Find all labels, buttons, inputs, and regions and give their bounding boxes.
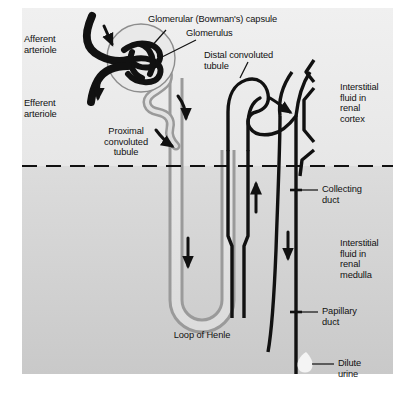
figure-canvas: Afferent arteriole Efferent arteriole Gl… [0, 0, 415, 401]
label-dilute-urine: Dilute urine [338, 358, 361, 379]
label-afferent-arteriole: Afferent arteriole [24, 34, 57, 55]
label-collecting-duct: Collecting duct [322, 184, 362, 205]
label-efferent-arteriole: Efferent arteriole [24, 98, 57, 119]
label-interstitial-fluid-cortex: Interstitial fluid in renal cortex [340, 82, 379, 124]
label-glomerulus: Glomerulus [186, 28, 233, 39]
label-papillary-duct: Papillary duct [322, 306, 357, 327]
label-bowmans-capsule: Glomerular (Bowman's) capsule [148, 14, 277, 25]
label-loop-of-henle: Loop of Henle [150, 330, 254, 341]
label-interstitial-fluid-medulla: Interstitial fluid in renal medulla [340, 238, 379, 280]
label-proximal-convoluted-tubule: Proximal convoluted tubule [86, 126, 166, 158]
efferent-outflow-arrow [98, 82, 99, 98]
label-distal-convoluted-tubule: Distal convoluted tubule [204, 50, 273, 71]
